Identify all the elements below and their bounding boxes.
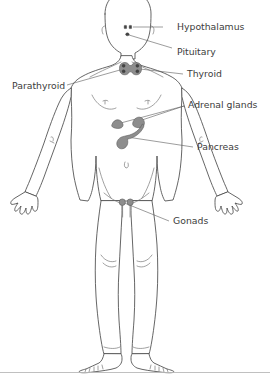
left-ear [102, 26, 105, 34]
pituitary-marker [126, 33, 129, 36]
left-leg-outline [95, 201, 122, 354]
label-thyroid: Thyroid [186, 68, 222, 79]
head-outline [105, 0, 151, 59]
endocrine-system-diagram: Hypothalamus Pituitary Thyroid Parathyro… [0, 0, 270, 375]
right-leg-outline [131, 201, 158, 354]
label-pancreas: Pancreas [197, 141, 239, 152]
label-adrenal-glands: Adrenal glands [188, 99, 258, 110]
right-hand-outline [215, 192, 242, 214]
left-hand-outline [11, 192, 38, 214]
anatomy-illustration: Hypothalamus Pituitary Thyroid Parathyro… [0, 0, 270, 375]
label-hypothalamus: Hypothalamus [177, 21, 245, 32]
torso-outline [71, 56, 182, 201]
label-parathyroid: Parathyroid [12, 80, 65, 91]
label-pituitary: Pituitary [177, 46, 216, 57]
label-gonads: Gonads [173, 215, 208, 226]
left-arm-outline [25, 88, 71, 196]
